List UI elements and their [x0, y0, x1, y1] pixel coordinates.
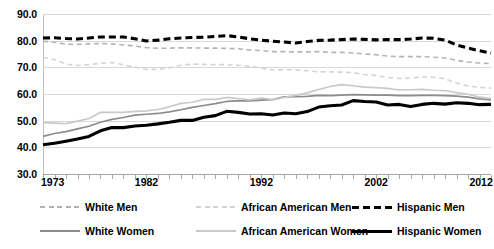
legend-swatch-hispanic-men-icon — [352, 201, 392, 213]
x-tick-label: 1973 — [41, 176, 64, 188]
legend-swatch-african-american-men-icon — [196, 201, 236, 213]
chart-legend: White MenAfrican American MenHispanic Me… — [0, 196, 494, 249]
x-tick-label: 1992 — [250, 176, 273, 188]
x-axis-labels: 19731982199220022012 — [0, 176, 494, 194]
series-line-hispanic-women — [43, 101, 491, 145]
legend-row: White MenAfrican American MenHispanic Me… — [0, 196, 494, 218]
legend-label: White Women — [85, 225, 154, 237]
legend-item-african-american-women[interactable]: African American Women — [196, 220, 368, 242]
y-axis-labels: 90.080.070.060.050.040.030.0 — [0, 0, 41, 190]
series-line-white-men — [43, 41, 491, 63]
legend-swatch-white-men-icon — [40, 201, 80, 213]
y-tick-label: 50.0 — [17, 116, 37, 126]
legend-swatch-african-american-women-icon — [196, 225, 236, 237]
legend-swatch-white-women-icon — [40, 225, 80, 237]
legend-label: Hispanic Men — [397, 201, 465, 213]
legend-label: Hispanic Women — [397, 225, 481, 237]
legend-item-hispanic-women[interactable]: Hispanic Women — [352, 220, 481, 242]
y-tick-label: 40.0 — [17, 142, 37, 152]
plot-area — [43, 14, 491, 174]
legend-item-white-men[interactable]: White Men — [40, 196, 138, 218]
y-tick-label: 60.0 — [17, 89, 37, 99]
series-line-african-american-men — [43, 57, 491, 88]
legend-row: White WomenAfrican American WomenHispani… — [0, 220, 494, 242]
y-tick-label: 70.0 — [17, 62, 37, 72]
x-tick-label: 2002 — [365, 176, 388, 188]
x-tick-label: 1982 — [135, 176, 158, 188]
x-axis-line — [43, 174, 491, 175]
series-lines — [43, 14, 491, 174]
y-tick-label: 90.0 — [17, 9, 37, 19]
legend-swatch-hispanic-women-icon — [352, 225, 392, 237]
legend-label: African American Men — [241, 201, 351, 213]
legend-item-hispanic-men[interactable]: Hispanic Men — [352, 196, 465, 218]
legend-label: African American Women — [241, 225, 368, 237]
legend-item-african-american-men[interactable]: African American Men — [196, 196, 351, 218]
legend-item-white-women[interactable]: White Women — [40, 220, 154, 242]
y-tick-label: 80.0 — [17, 36, 37, 46]
line-chart: 90.080.070.060.050.040.030.0 19731982199… — [0, 0, 494, 249]
x-tick-label: 2012 — [469, 176, 492, 188]
legend-label: White Men — [85, 201, 138, 213]
